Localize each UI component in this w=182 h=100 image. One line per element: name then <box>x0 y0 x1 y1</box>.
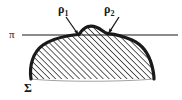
arrow-to-rho1 <box>66 17 79 35</box>
plane-pi-label: π <box>9 29 15 40</box>
point-rho2-label: ρ2 <box>104 3 114 18</box>
arrow-to-rho2 <box>108 17 119 33</box>
figure-container: π Σ ρ1 ρ2 <box>0 0 182 100</box>
point-rho2-subscript: 2 <box>110 9 114 18</box>
surface-sigma-label: Σ <box>24 82 32 94</box>
surface-bottom-edge <box>31 79 154 81</box>
point-rho1-label: ρ1 <box>58 3 68 18</box>
point-rho1-subscript: 1 <box>64 9 68 18</box>
